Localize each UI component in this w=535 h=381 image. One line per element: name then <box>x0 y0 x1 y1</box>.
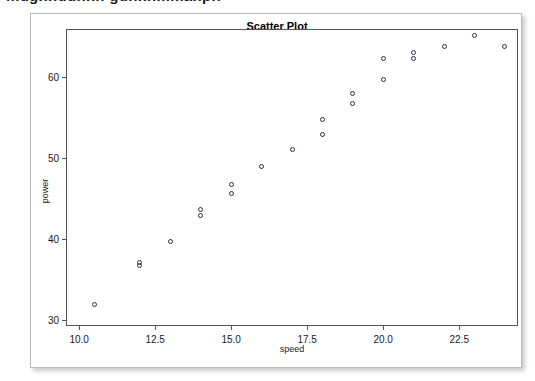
y-axis-label: power <box>40 178 50 203</box>
x-axis-tick <box>307 325 308 330</box>
scatter-point <box>472 33 477 38</box>
scatter-point <box>320 117 325 122</box>
x-axis-tick-label: 10.0 <box>69 334 88 345</box>
y-axis-tick <box>62 77 67 78</box>
scatter-point <box>502 44 507 49</box>
scatter-point <box>229 182 234 187</box>
y-axis-tick-label: 60 <box>48 72 59 83</box>
y-axis-tick-label: 30 <box>48 315 59 326</box>
x-axis-tick-label: 20.0 <box>373 334 392 345</box>
scatter-point <box>442 44 447 49</box>
y-axis-tick <box>62 320 67 321</box>
x-axis-tick <box>155 325 156 330</box>
y-axis-tick <box>62 158 67 159</box>
scatter-point <box>411 56 416 61</box>
scatter-point <box>198 207 203 212</box>
x-axis-tick-label: 17.5 <box>297 334 316 345</box>
scatter-point <box>381 77 386 82</box>
scatter-point <box>411 50 416 55</box>
screenshot-root: mugnnuunnn gunnnmmanpn Scatter Plot powe… <box>0 0 535 381</box>
figure-panel: Scatter Plot power speed 30405060 10.012… <box>30 13 522 368</box>
scatter-point <box>168 239 173 244</box>
clipped-header-row: mugnnuunnn gunnnmmanpn <box>0 0 535 10</box>
scatter-point <box>350 91 355 96</box>
x-axis-label: speed <box>66 344 518 354</box>
scatter-point <box>229 191 234 196</box>
scatter-point <box>350 101 355 106</box>
x-axis-tick <box>231 325 232 330</box>
plot-area: 30405060 10.012.515.017.520.022.5 <box>66 29 518 326</box>
scatter-point <box>92 302 97 307</box>
scatter-point <box>381 56 386 61</box>
x-axis-tick-label: 12.5 <box>145 334 164 345</box>
scatter-point <box>259 164 264 169</box>
scatter-point <box>198 213 203 218</box>
x-axis-tick <box>459 325 460 330</box>
clipped-header-text: mugnnuunnn gunnnmmanpn <box>6 0 221 4</box>
scatter-point <box>290 147 295 152</box>
x-axis-tick-label: 22.5 <box>449 334 468 345</box>
y-axis-tick-label: 50 <box>48 153 59 164</box>
y-axis-tick <box>62 239 67 240</box>
x-axis-tick-label: 15.0 <box>221 334 240 345</box>
x-axis-tick <box>79 325 80 330</box>
x-axis-tick <box>383 325 384 330</box>
y-axis-tick-label: 40 <box>48 234 59 245</box>
scatter-point <box>320 132 325 137</box>
scatter-point <box>137 263 142 268</box>
